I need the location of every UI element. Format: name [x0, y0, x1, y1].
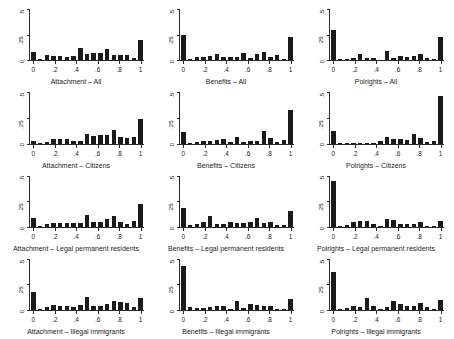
bars-container [180, 177, 294, 227]
histogram-bar [235, 57, 239, 60]
histogram-bar [425, 307, 429, 310]
histogram-bar [38, 143, 42, 144]
histogram-bar [132, 307, 136, 310]
x-axis-tick-label: .8 [117, 316, 122, 323]
histogram-bar [78, 305, 82, 310]
y-axis-tick-label: 0 [169, 60, 175, 63]
histogram-bar [125, 55, 129, 60]
histogram-panel: 0.25.50.2.4.6.81Benefits – Illegal immig… [152, 254, 302, 337]
histogram-bar [378, 141, 382, 143]
histogram-bar [268, 57, 272, 60]
x-axis-tick-label: .2 [52, 233, 57, 240]
x-axis-tick-label: 1 [439, 66, 443, 73]
histogram-bar [65, 306, 69, 310]
x-axis-tick-label: .8 [417, 150, 422, 157]
x-axis-tick [269, 145, 270, 148]
y-axis: 0.25.5 [162, 260, 180, 311]
histogram-bar [78, 48, 82, 60]
x-axis-tick [248, 145, 249, 148]
plot-area: 0.25.50.2.4.6.81Attachment – Citizens [4, 89, 148, 170]
x-axis-tick-label: .2 [202, 66, 207, 73]
histogram-bar [432, 309, 436, 310]
y-axis-tick-label: .25 [319, 287, 325, 296]
x-axis-tick [441, 311, 442, 314]
histogram-bar [215, 54, 219, 60]
histogram-bar [235, 301, 239, 310]
x-axis-tick [98, 61, 99, 64]
x-axis-tick-label: .2 [52, 66, 57, 73]
x-axis-tick [291, 145, 292, 148]
x-axis-tick-label: 1 [289, 150, 293, 157]
histogram-bar [228, 142, 232, 144]
x-axis-tick [141, 228, 142, 231]
histogram-bar [378, 226, 382, 227]
x-axis-tick [441, 61, 442, 64]
y-axis-tick-label: .5 [319, 259, 325, 264]
histogram-panel: 0.25.50.2.4.6.81Attachment – All [2, 4, 152, 87]
bars-container [330, 93, 444, 143]
x-axis-tick-label: .6 [95, 316, 100, 323]
histogram-bar [181, 266, 185, 310]
panel-title: Polrights – Citizens [304, 162, 448, 170]
x-axis-spine [180, 227, 294, 228]
histogram-bar [391, 220, 395, 227]
histogram-bar [338, 226, 342, 227]
y-axis-tick-label: 0 [319, 226, 325, 229]
histogram-bar [132, 58, 136, 60]
histogram-bar [221, 224, 225, 227]
histogram-bar [85, 134, 89, 144]
histogram-bar [412, 56, 416, 60]
histogram-panel: 0.25.50.2.4.6.81Attachment – Citizens [2, 87, 152, 170]
x-axis-tick-label: .8 [417, 233, 422, 240]
x-axis-tick-label: 0 [332, 316, 336, 323]
histogram-bar [365, 58, 369, 60]
histogram-bar [288, 299, 292, 310]
histogram-bar [38, 226, 42, 227]
y-axis-tick-label: .5 [319, 93, 325, 98]
plot-area: 0.25.50.2.4.6.81Polrights – Legal perman… [304, 173, 448, 254]
y-axis-tick-label: .5 [319, 9, 325, 14]
histogram-bar [195, 57, 199, 60]
x-axis-spine [330, 60, 444, 61]
y-axis: 0.25.5 [162, 177, 180, 228]
y-axis: 0.25.5 [162, 93, 180, 144]
y-axis-tick-label: 0 [169, 310, 175, 313]
histogram-bar [268, 306, 272, 310]
histogram-grid-figure: 0.25.50.2.4.6.81Attachment – All0.25.50.… [0, 0, 454, 339]
histogram-bar [118, 302, 122, 310]
x-axis-tick [205, 145, 206, 148]
histogram-bar [358, 221, 362, 227]
histogram-bar [51, 139, 55, 144]
histogram-bar [275, 55, 279, 60]
histogram-bar [405, 140, 409, 144]
histogram-bar [385, 51, 389, 60]
y-axis-tick-label: .25 [169, 203, 175, 212]
plot-area: 0.25.50.2.4.6.81Attachment – Legal perma… [4, 173, 148, 254]
y-axis-tick-label: 0 [169, 143, 175, 146]
x-axis-tick [398, 228, 399, 231]
histogram-bar [418, 222, 422, 227]
panel-title: Benefits – All [154, 78, 298, 86]
histogram-bar [125, 303, 129, 310]
histogram-bar [201, 57, 205, 60]
bars-container [180, 10, 294, 60]
x-axis-tick-label: .4 [374, 66, 379, 73]
histogram-bar [208, 56, 212, 60]
histogram-bar [65, 57, 69, 61]
y-axis-tick-label: .5 [169, 176, 175, 181]
histogram-bar [195, 224, 199, 227]
histogram-bar [365, 143, 369, 144]
y-axis-tick-label: .25 [319, 37, 325, 46]
histogram-bar [345, 225, 349, 227]
histogram-bar [235, 137, 239, 143]
histogram-bar [181, 208, 185, 226]
histogram-bar [255, 54, 259, 60]
y-axis-tick-label: 0 [19, 310, 25, 313]
histogram-bar [365, 298, 369, 310]
histogram-bar [331, 181, 335, 227]
histogram-bar [38, 59, 42, 60]
plot-area: 0.25.50.2.4.6.81Polrights – All [304, 6, 448, 87]
x-axis-tick [33, 145, 34, 148]
x-axis-tick [333, 145, 334, 148]
x-axis-tick-label: .2 [52, 316, 57, 323]
